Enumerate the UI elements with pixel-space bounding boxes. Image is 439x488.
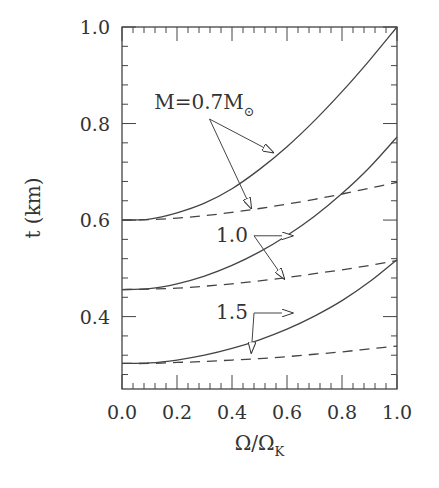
annotation-arrow bbox=[251, 313, 254, 353]
annotation-arrow bbox=[210, 119, 252, 208]
x-axis-title-subscript: K bbox=[275, 444, 285, 459]
y-axis-title: t (km) bbox=[21, 177, 45, 238]
y-tick-label: 1.0 bbox=[80, 16, 110, 38]
annotation-arrow bbox=[210, 119, 274, 152]
x-tick-label: 0.2 bbox=[162, 401, 192, 423]
series-line-m15-dashed bbox=[122, 346, 397, 363]
series-line-m10-solid bbox=[122, 137, 397, 290]
annotations: M=0.7M⊙1.01.5 bbox=[154, 90, 292, 353]
y-tick-label: 0.4 bbox=[80, 306, 110, 328]
x-tick-label: 1.0 bbox=[382, 401, 412, 423]
y-tick-label: 0.8 bbox=[80, 113, 110, 135]
annotation-label: M=0.7M⊙ bbox=[154, 90, 254, 119]
annotation-arrow bbox=[254, 236, 284, 279]
x-tick-label: 0.8 bbox=[327, 401, 357, 423]
x-tick-label: 0.4 bbox=[217, 401, 247, 423]
chart: M=0.7M⊙1.01.5 0.00.20.40.60.81.00.40.60.… bbox=[0, 0, 439, 488]
x-axis-title: Ω/ΩK bbox=[235, 431, 285, 459]
series-line-m07-solid bbox=[122, 27, 397, 220]
annotation-text: 1.5 bbox=[216, 300, 248, 324]
annotation-label: 1.0 bbox=[216, 223, 248, 247]
x-tick-label: 0.0 bbox=[107, 401, 137, 423]
annotation-text: M=0.7M bbox=[154, 90, 244, 114]
annotation-text: 1.0 bbox=[216, 223, 248, 247]
x-tick-label: 0.6 bbox=[272, 401, 302, 423]
series-line-m15-solid bbox=[122, 260, 397, 364]
annotation-subscript: ⊙ bbox=[244, 104, 255, 119]
y-tick-label: 0.6 bbox=[80, 209, 110, 231]
annotation-label: 1.5 bbox=[216, 300, 248, 324]
x-axis-title-main: Ω/Ω bbox=[235, 431, 275, 455]
series-line-m10-dashed bbox=[122, 261, 397, 290]
series-line-m07-dashed bbox=[122, 182, 397, 220]
